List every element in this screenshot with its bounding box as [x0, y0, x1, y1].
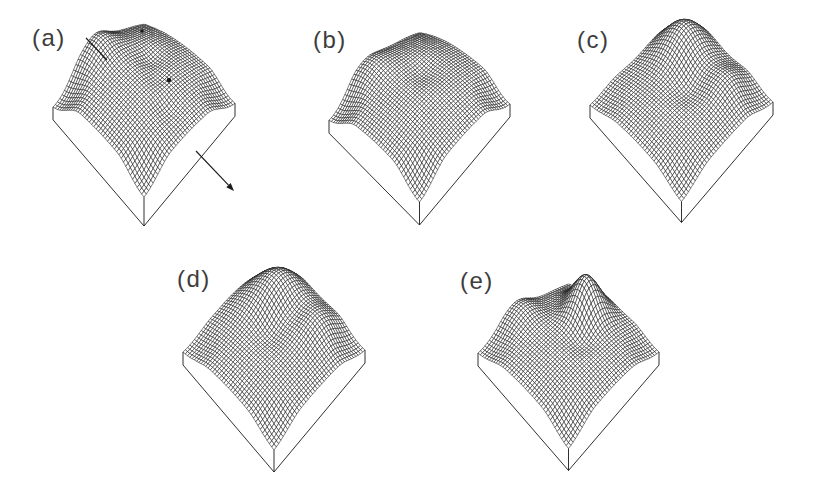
surface-panel-b [329, 33, 510, 225]
direction-arrow-shaft [196, 151, 228, 185]
mesh-band [562, 436, 576, 443]
panel-label-c: (c) [577, 26, 609, 54]
mesh-band [267, 437, 281, 444]
surface-panel-d [183, 267, 365, 472]
surface-panel-a [53, 24, 235, 226]
mesh-band [137, 184, 151, 191]
panel-label-d: (d) [177, 265, 211, 293]
panel-label-b: (b) [313, 26, 347, 54]
panel-label-a: (a) [32, 24, 66, 52]
surface-panel-e [478, 275, 659, 471]
figure-canvas [0, 0, 814, 500]
figure: (a) (b) (c) (d) (e) [0, 0, 814, 500]
panel-label-e: (e) [460, 267, 494, 295]
surface-panel-c [590, 19, 773, 222]
mesh-band [675, 189, 689, 196]
point-defect-dot [140, 29, 143, 32]
point-defect-dot [167, 78, 172, 83]
mesh-band [413, 189, 427, 196]
